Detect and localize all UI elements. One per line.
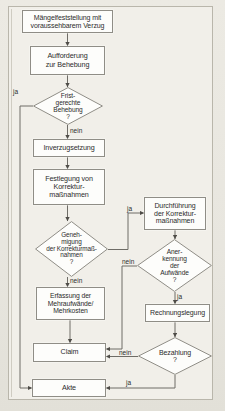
edge-label-genehmigung-nein: nein <box>70 278 82 285</box>
node-label: Claim <box>59 348 81 356</box>
node-claim[interactable]: Claim <box>33 343 106 362</box>
edge-label-genehmigung-ja: ja <box>127 206 132 213</box>
node-label: Festlegung von Korrektur- maßnahmen <box>43 175 95 199</box>
node-genehmigung-korrekturmassnahmen[interactable]: Geneh- migung der Korrekturmaß- nahmen ? <box>35 221 108 277</box>
node-maengelfeststellung[interactable]: Mängelfeststellung mit voraussehbarem Ve… <box>22 10 113 33</box>
node-inverzugsetzung[interactable]: Inverzugsetzung <box>33 139 105 157</box>
node-fristgerechte-behebung[interactable]: Frist- gerechte Behebung ? <box>33 87 103 125</box>
node-anerkennung-aufwaende[interactable]: Aner- kennung der Aufwände ? <box>137 239 212 292</box>
node-erfassung-mehraufwaende[interactable]: Erfassung der Mehraufwände/ Mehrkosten <box>36 287 105 320</box>
node-label: Aufforderung zur Behebung <box>44 52 92 68</box>
node-label: Durchführung der Korrektur- maßnahmen <box>152 202 198 225</box>
edge-label-bezahlung-ja: ja <box>126 380 131 387</box>
edge-label-bezahlung-nein: nein <box>119 350 131 357</box>
edge-label-frist-ja: ja <box>13 89 18 96</box>
edge-label-anerkennung-nein: nein <box>122 259 134 266</box>
node-label: Erfassung der Mehraufwände/ Mehrkosten <box>46 292 96 315</box>
node-durchfuehrung-korrekturmassnahmen[interactable]: Durchführung der Korrektur- maßnahmen <box>144 197 206 230</box>
edge-label-anerkennung-ja: ja <box>177 294 182 301</box>
node-aufforderung[interactable]: Aufforderung zur Behebung <box>30 46 105 75</box>
node-label: Inverzugsetzung <box>41 144 96 152</box>
node-akte[interactable]: Akte <box>32 379 106 397</box>
node-label: Bezahlung ? <box>159 349 191 364</box>
node-label: Akte <box>60 384 78 392</box>
node-label: Geneh- migung der Korrekturmaß- nahmen ? <box>46 232 97 266</box>
node-label: Mängelfeststellung mit voraussehbarem Ve… <box>29 14 107 30</box>
flowchart-diagram: Mängelfeststellung mit voraussehbarem Ve… <box>0 0 225 411</box>
node-label: Aner- kennung der Aufwände ? <box>160 248 189 283</box>
node-label: Frist- gerechte Behebung ? <box>53 92 82 120</box>
node-bezahlung[interactable]: Bezahlung ? <box>138 337 212 375</box>
node-festlegung-korrekturmassnahmen[interactable]: Festlegung von Korrektur- maßnahmen <box>33 169 105 205</box>
node-label: Rechnungslegung <box>148 309 207 317</box>
edge-label-frist-nein: nein <box>70 128 82 135</box>
node-rechnungslegung[interactable]: Rechnungslegung <box>145 304 210 322</box>
